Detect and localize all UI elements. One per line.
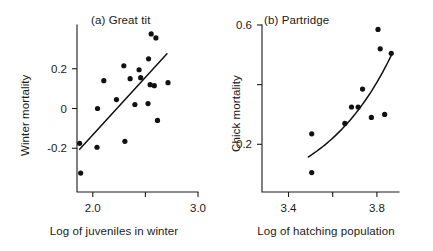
data-point	[165, 80, 170, 85]
data-point	[121, 63, 126, 68]
data-point	[375, 27, 380, 32]
chart-panel-b: 0.60.23.43.8 (b) Partridge Log of hatchi…	[216, 0, 433, 251]
chart-panel-a: 0.20-0.22.03.0 (a) Great tit Log of juve…	[0, 0, 216, 251]
panel-b-plot-area: 0.60.23.43.8	[216, 0, 433, 251]
panel-a-x-axis-title: Log of juveniles in winter	[24, 225, 204, 237]
data-point	[152, 83, 157, 88]
data-point	[145, 101, 150, 106]
data-point	[95, 106, 100, 111]
y-axis-tick-label: -0.2	[47, 142, 67, 154]
data-point	[114, 97, 119, 102]
y-axis-tick-label: 0.6	[236, 19, 252, 31]
data-point	[146, 56, 151, 61]
x-axis-tick-label: 3.0	[190, 202, 206, 214]
data-point	[155, 118, 160, 123]
data-point	[149, 31, 154, 36]
data-point	[128, 76, 133, 81]
data-point	[356, 104, 361, 109]
scientific-figure: 0.20-0.22.03.0 (a) Great tit Log of juve…	[0, 0, 433, 251]
x-axis-tick-label: 2.0	[85, 202, 101, 214]
data-point	[360, 87, 365, 92]
panel-a-y-axis-title: Winter mortality	[19, 75, 31, 156]
data-point	[136, 67, 141, 72]
data-point	[138, 75, 143, 80]
panel-b-x-axis-title: Log of hatching population	[226, 225, 426, 237]
data-point	[153, 35, 158, 40]
data-point	[382, 112, 387, 117]
data-point	[101, 78, 106, 83]
data-point	[132, 102, 137, 107]
data-point	[78, 171, 83, 176]
panel-a-plot-area: 0.20-0.22.03.0	[0, 0, 216, 251]
data-point	[77, 141, 82, 146]
x-axis-tick-label: 3.8	[369, 202, 385, 214]
y-axis-tick-label: 0.2	[51, 63, 67, 75]
data-point	[349, 104, 354, 109]
data-point	[369, 115, 374, 120]
data-point	[378, 46, 383, 51]
panel-a-title: (a) Great tit	[91, 14, 150, 26]
x-axis-tick-label: 3.4	[281, 202, 298, 214]
data-point	[122, 139, 127, 144]
data-point	[389, 51, 394, 56]
panel-b-title: (b) Partridge	[264, 14, 329, 26]
data-point	[342, 121, 347, 126]
data-point	[309, 170, 314, 175]
data-point	[94, 145, 99, 150]
panel-b-y-axis-title: Chick mortality	[230, 75, 242, 152]
y-axis-tick-label: 0	[61, 103, 67, 115]
data-point	[309, 131, 314, 136]
